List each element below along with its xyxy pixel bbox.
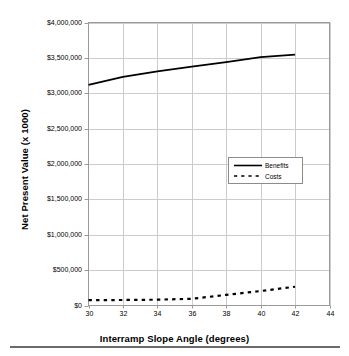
series-line-benefits xyxy=(89,55,296,85)
x-axis-title: Interramp Slope Angle (degrees) xyxy=(0,333,349,344)
series-line-costs xyxy=(89,287,296,300)
x-tick-label: 42 xyxy=(281,310,311,317)
legend-label-costs: Costs xyxy=(265,173,282,180)
x-tick-label: 30 xyxy=(75,310,105,317)
x-tick-label: 34 xyxy=(143,310,173,317)
y-tick-label: $0 xyxy=(20,302,82,309)
y-axis-title: Net Present Value (x 1000) xyxy=(19,60,30,280)
x-tick-label: 38 xyxy=(212,310,242,317)
grid-horizontal xyxy=(89,24,330,271)
chart-container: Benefits Costs $0$500,000$1,000,000$1,50… xyxy=(0,0,349,356)
x-tick-label: 44 xyxy=(316,310,346,317)
legend-label-benefits: Benefits xyxy=(265,162,289,169)
x-tick-label: 32 xyxy=(109,310,139,317)
x-tick-label: 36 xyxy=(178,310,208,317)
y-tick-label: $4,000,000 xyxy=(20,19,82,26)
footer-divider xyxy=(10,346,340,348)
x-tick-label: 40 xyxy=(247,310,277,317)
